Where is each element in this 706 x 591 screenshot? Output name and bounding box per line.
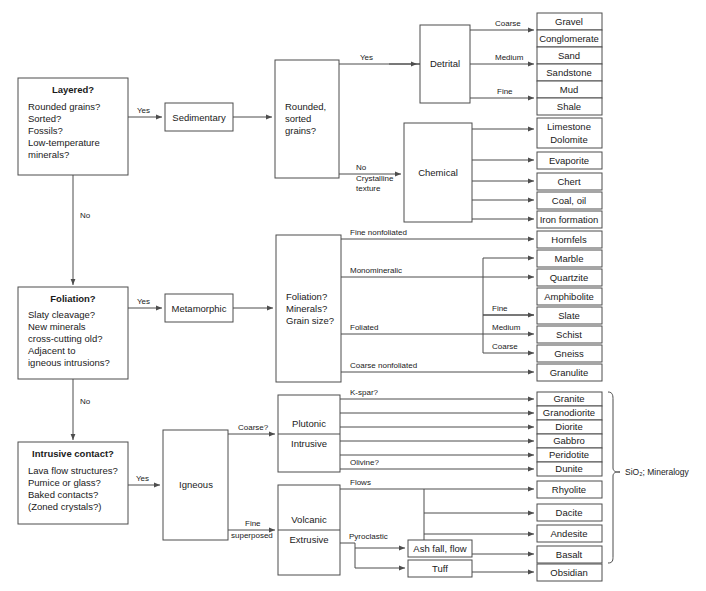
product-coal-oil: Coal, oil (537, 192, 602, 209)
decision-layered-line-1: Rounded grains? (28, 101, 100, 112)
product-label: Slate (558, 310, 580, 321)
class-igneous-label: Igneous (179, 479, 213, 490)
product-label: Schist (556, 329, 582, 340)
criteria-metamorphic-line-3: Grain size? (286, 315, 334, 326)
group-plutonic-label-bottom: Intrusive (291, 438, 327, 449)
class-sedimentary[interactable]: Sedimentary (165, 103, 233, 131)
product-label: Mud (560, 84, 578, 95)
decision-intrusive-line-4: (Zoned crystals?) (28, 501, 101, 512)
product-label: Granulite (550, 367, 589, 378)
product-slate: Slate (537, 307, 602, 324)
class-igneous[interactable]: Igneous (163, 430, 228, 540)
decision-layered-line-3: Fossils? (28, 125, 63, 136)
edge-label-detrital-medium: Medium (495, 53, 524, 62)
product-mud-shale: Mud Shale (537, 81, 602, 115)
product-andesite: Andesite (537, 525, 602, 542)
edge-label-met-fine-nonfoliated: Fine nonfoliated (350, 228, 407, 237)
sio2-mineralogy-label: SiO₂; Mineralogy (625, 467, 690, 477)
criteria-metamorphic: Foliation? Minerals? Grain size? (276, 235, 341, 382)
edge-label-igneous-coarse: Coarse? (238, 423, 269, 432)
edge-label-ign-pyroclastic: Pyroclastic (349, 532, 388, 541)
edge-label-detrital-coarse: Coarse (495, 19, 521, 28)
edge-label-sed-no-sub1: Crystalline (356, 174, 394, 183)
product-chert: Chert (537, 173, 602, 190)
product-dunite: Dunite (537, 462, 602, 476)
group-chemical-label: Chemical (418, 167, 458, 178)
decision-foliation-line-5: igneous intrusions? (28, 357, 110, 368)
product-label: Gabbro (553, 435, 585, 446)
product-gneiss: Gneiss (537, 345, 602, 362)
decision-layered-line-4: Low-temperature (28, 137, 100, 148)
product-gravel-conglomerate: Gravel Conglomerate (537, 13, 602, 47)
product-iron-formation: Iron formation (537, 211, 602, 228)
product-label: Coal, oil (552, 195, 586, 206)
edge-label-ign-olivine: Olivine? (350, 458, 379, 467)
product-label: Granite (553, 393, 584, 404)
decision-intrusive-heading: Intrusive contact? (32, 448, 114, 459)
product-label: Limestone (547, 121, 591, 132)
edge-label-ign-kspar: K-spar? (350, 388, 379, 397)
product-label: Dolomite (550, 134, 588, 145)
edge-label-sed-yes: Yes (360, 53, 373, 62)
product-label: Chert (557, 176, 581, 187)
product-marble: Marble (537, 250, 602, 267)
edge-label-sed-no: No (356, 163, 367, 172)
group-detrital: Detrital (420, 25, 470, 103)
edge-label-met-coarse: Coarse (492, 342, 518, 351)
group-chemical: Chemical (404, 123, 472, 222)
product-peridotite: Peridotite (537, 448, 602, 462)
product-obsidian: Obsidian (537, 564, 602, 581)
edge-label-met-medium: Medium (492, 323, 521, 332)
product-label: Peridotite (549, 449, 589, 460)
product-label: Ash fall, flow (413, 543, 466, 554)
product-granite: Granite (537, 392, 602, 406)
edge-label-intrusive-yes: Yes (136, 474, 149, 483)
product-label: Obsidian (550, 567, 588, 578)
group-plutonic-label-top: Plutonic (292, 418, 326, 429)
decision-foliation[interactable]: Foliation? Slaty cleavage? New minerals … (18, 287, 128, 379)
product-label: Amphibolite (544, 291, 594, 302)
decision-intrusive-contact[interactable]: Intrusive contact? Lava flow structures?… (18, 442, 128, 524)
edge-label-detrital-fine: Fine (497, 87, 513, 96)
product-granodiorite: Granodiorite (537, 406, 602, 420)
product-label: Andesite (551, 528, 588, 539)
product-label: Iron formation (540, 214, 599, 225)
decision-layered[interactable]: Layered? Rounded grains? Sorted? Fossils… (18, 78, 128, 175)
criteria-metamorphic-line-2: Minerals? (286, 303, 327, 314)
decision-foliation-line-4: Adjacent to (28, 345, 76, 356)
decision-foliation-line-3: cross-cutting old? (28, 333, 102, 344)
edge-label-igneous-superposed: superposed (231, 531, 273, 540)
product-granulite: Granulite (537, 364, 602, 381)
group-detrital-label: Detrital (430, 58, 460, 69)
product-ash-fall-flow: Ash fall, flow (408, 540, 472, 557)
group-volcanic-label-bottom: Extrusive (289, 534, 328, 545)
product-rhyolite: Rhyolite (537, 481, 602, 498)
edge-label-sed-no-sub2: texture (356, 184, 381, 193)
product-schist: Schist (537, 326, 602, 343)
decision-layered-heading: Layered? (52, 84, 94, 95)
product-label: Tuff (432, 563, 448, 574)
product-label: Basalt (556, 549, 583, 560)
product-label: Marble (554, 253, 583, 264)
product-label: Rhyolite (552, 484, 586, 495)
class-metamorphic-label: Metamorphic (172, 303, 227, 314)
edge-label-foliation-yes: Yes (137, 297, 150, 306)
decision-layered-line-2: Sorted? (28, 113, 61, 124)
decision-layered-line-5: minerals? (28, 149, 69, 160)
product-diorite: Diorite (537, 420, 602, 434)
product-label: Sand (558, 50, 580, 61)
product-label: Dunite (555, 463, 582, 474)
group-volcanic: Volcanic Extrusive (278, 485, 340, 575)
group-plutonic: Plutonic Intrusive (278, 395, 340, 472)
class-metamorphic[interactable]: Metamorphic (165, 294, 233, 322)
decision-intrusive-line-1: Lava flow structures? (28, 465, 118, 476)
criteria-sedimentary-line-2: sorted (285, 113, 311, 124)
product-tuff: Tuff (408, 560, 472, 577)
criteria-sedimentary-line-3: grains? (285, 125, 316, 136)
group-volcanic-label-top: Volcanic (291, 514, 327, 525)
decision-foliation-line-1: Slaty cleavage? (28, 309, 95, 320)
edge-label-met-foliated: Foliated (350, 323, 378, 332)
product-label: Granodiorite (543, 407, 595, 418)
criteria-metamorphic-line-1: Foliation? (286, 291, 327, 302)
edge-label-met-fine: Fine (492, 304, 508, 313)
